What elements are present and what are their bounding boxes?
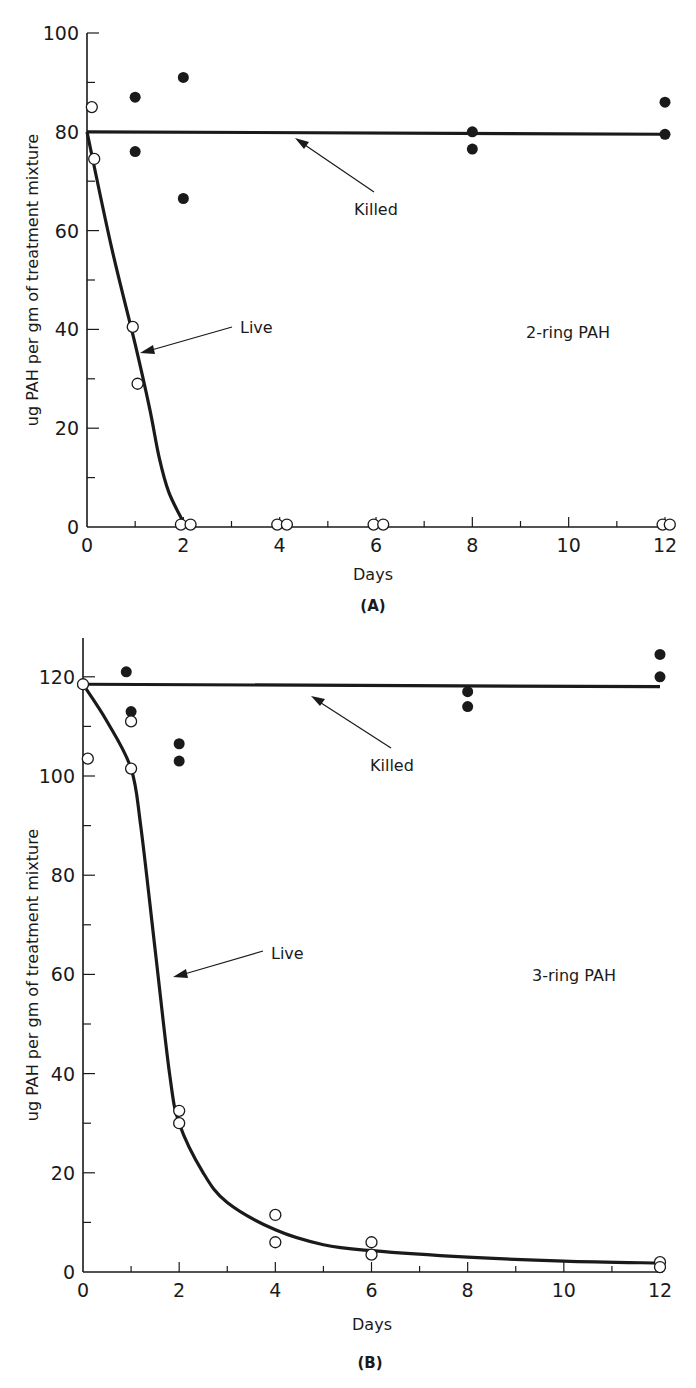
live-data-point bbox=[366, 1249, 377, 1260]
x-tick-label: 4 bbox=[274, 534, 286, 556]
chart-a-y-axis-title: ug PAH per gm of treatment mixture bbox=[23, 134, 42, 426]
chart-b-title-annotation: 3-ring PAH bbox=[532, 966, 616, 985]
killed-data-point bbox=[174, 738, 185, 749]
chart-b-live-label: Live bbox=[271, 944, 304, 963]
y-tick-label: 80 bbox=[51, 864, 75, 886]
y-tick-label: 20 bbox=[55, 417, 79, 439]
x-tick-label: 2 bbox=[177, 534, 189, 556]
chart-b: 024681012020406080100120 ug PAH per gm o… bbox=[23, 638, 672, 1372]
chart-a: 024681012020406080100 ug PAH per gm of t… bbox=[23, 22, 677, 615]
y-tick-label: 60 bbox=[55, 220, 79, 242]
chart-a-live-label: Live bbox=[240, 318, 273, 337]
x-tick-label: 2 bbox=[173, 1279, 185, 1301]
killed-data-point bbox=[655, 671, 666, 682]
killed-data-point bbox=[660, 129, 671, 140]
killed-data-point bbox=[467, 144, 478, 155]
chart-a-killed-arrow bbox=[295, 138, 374, 192]
live-data-point bbox=[126, 716, 137, 727]
live-data-point bbox=[281, 519, 292, 530]
y-tick-label: 100 bbox=[43, 22, 79, 44]
chart-a-killed-line bbox=[87, 132, 665, 134]
live-data-point bbox=[378, 519, 389, 530]
y-tick-label: 40 bbox=[55, 318, 79, 340]
chart-a-killed-points bbox=[130, 72, 671, 204]
killed-data-point bbox=[178, 193, 189, 204]
chart-b-live-arrow bbox=[173, 951, 263, 978]
live-data-point bbox=[127, 321, 138, 332]
killed-data-point bbox=[174, 756, 185, 767]
chart-b-panel-label: (B) bbox=[357, 1354, 382, 1372]
y-tick-label: 0 bbox=[63, 1261, 75, 1283]
y-tick-label: 60 bbox=[51, 963, 75, 985]
live-data-point bbox=[174, 1105, 185, 1116]
chart-a-killed-label: Killed bbox=[354, 200, 398, 219]
killed-data-point bbox=[462, 686, 473, 697]
live-data-point bbox=[664, 519, 675, 530]
x-tick-label: 0 bbox=[81, 534, 93, 556]
live-data-point bbox=[132, 378, 143, 389]
chart-a-x-axis-title: Days bbox=[353, 565, 393, 584]
y-tick-label: 40 bbox=[51, 1063, 75, 1085]
live-data-point bbox=[126, 763, 137, 774]
figure: 024681012020406080100 ug PAH per gm of t… bbox=[0, 0, 696, 1388]
live-data-point bbox=[366, 1237, 377, 1248]
x-tick-label: 8 bbox=[462, 1279, 474, 1301]
killed-data-point bbox=[660, 97, 671, 108]
x-tick-label: 10 bbox=[557, 534, 581, 556]
chart-a-title-annotation: 2-ring PAH bbox=[526, 323, 610, 342]
y-tick-label: 20 bbox=[51, 1162, 75, 1184]
x-tick-label: 6 bbox=[370, 534, 382, 556]
killed-data-point bbox=[462, 701, 473, 712]
x-tick-label: 6 bbox=[365, 1279, 377, 1301]
y-tick-label: 80 bbox=[55, 121, 79, 143]
killed-data-point bbox=[178, 72, 189, 83]
live-data-point bbox=[655, 1262, 666, 1273]
live-data-point bbox=[185, 519, 196, 530]
x-tick-label: 8 bbox=[466, 534, 478, 556]
x-tick-label: 12 bbox=[648, 1279, 672, 1301]
live-data-point bbox=[82, 753, 93, 764]
x-tick-label: 12 bbox=[653, 534, 677, 556]
chart-a-live-points bbox=[86, 102, 675, 530]
y-tick-label: 120 bbox=[39, 666, 75, 688]
killed-data-point bbox=[121, 666, 132, 677]
chart-b-killed-line bbox=[83, 684, 660, 686]
chart-a-live-arrow bbox=[140, 327, 232, 354]
killed-data-point bbox=[467, 126, 478, 137]
live-data-point bbox=[270, 1237, 281, 1248]
chart-b-killed-label: Killed bbox=[370, 756, 414, 775]
live-data-point bbox=[86, 102, 97, 113]
chart-b-y-axis-title: ug PAH per gm of treatment mixture bbox=[23, 829, 42, 1121]
chart-b-killed-points bbox=[121, 649, 666, 767]
killed-data-point bbox=[130, 92, 141, 103]
x-tick-label: 10 bbox=[552, 1279, 576, 1301]
chart-a-panel-label: (A) bbox=[360, 597, 385, 615]
x-tick-label: 0 bbox=[77, 1279, 89, 1301]
y-tick-label: 0 bbox=[67, 516, 79, 538]
live-data-point bbox=[270, 1209, 281, 1220]
chart-b-killed-arrow bbox=[311, 696, 391, 748]
chart-a-axes: 024681012020406080100 bbox=[43, 22, 677, 556]
x-tick-label: 4 bbox=[269, 1279, 281, 1301]
killed-data-point bbox=[655, 649, 666, 660]
y-tick-label: 100 bbox=[39, 765, 75, 787]
live-data-point bbox=[174, 1118, 185, 1129]
killed-data-point bbox=[130, 146, 141, 157]
chart-b-x-axis-title: Days bbox=[352, 1315, 392, 1334]
live-data-point bbox=[78, 679, 89, 690]
live-data-point bbox=[89, 153, 100, 164]
